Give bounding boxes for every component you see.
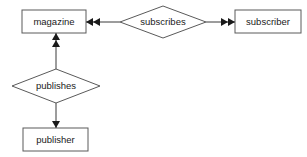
entity-subscriber-label: subscriber xyxy=(246,16,290,27)
relationship-subscribes-label: subscribes xyxy=(140,16,186,27)
relationship-subscribes[interactable]: subscribes xyxy=(120,6,206,38)
relationship-publishes[interactable]: publishes xyxy=(12,69,100,103)
er-diagram-canvas: magazine subscriber publisher subscribes… xyxy=(0,0,307,157)
entity-magazine-label: magazine xyxy=(33,16,74,27)
er-diagram-svg: magazine subscriber publisher subscribes… xyxy=(0,0,307,157)
entity-subscriber[interactable]: subscriber xyxy=(235,10,301,33)
arrowhead-subscriber-inner-icon xyxy=(228,18,235,26)
arrowhead-publishes-magazine-outer-icon xyxy=(52,40,60,47)
entity-publisher[interactable]: publisher xyxy=(23,128,88,151)
entity-magazine[interactable]: magazine xyxy=(22,10,86,33)
entity-publisher-label: publisher xyxy=(36,134,75,145)
arrowhead-subscriber-outer-icon xyxy=(221,18,228,26)
arrowhead-publishes-magazine-inner-icon xyxy=(52,33,60,40)
arrowhead-magazine-outer-icon xyxy=(93,18,100,26)
arrowhead-publishes-publisher-icon xyxy=(52,121,60,128)
relationship-publishes-label: publishes xyxy=(36,80,76,91)
arrowhead-magazine-inner-icon xyxy=(86,18,93,26)
